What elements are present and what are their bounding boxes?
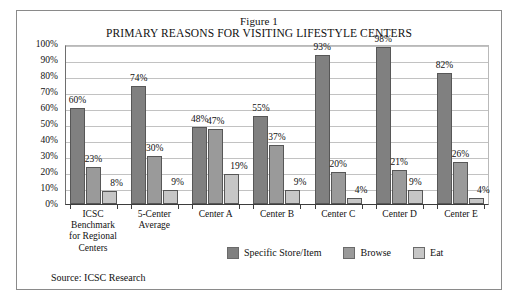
category-label: Center E: [437, 209, 485, 254]
bar-value-label: 98%: [375, 35, 392, 45]
bar[interactable]: 20%: [331, 172, 346, 204]
bar-group: 93%20%4%: [315, 46, 362, 204]
bar-value-label: 4%: [355, 186, 368, 196]
legend-label: Browse: [360, 248, 391, 258]
figure-title-block: Figure 1 PRIMARY REASONS FOR VISITING LI…: [17, 15, 501, 40]
y-tick-label: 20%: [41, 168, 58, 178]
y-tick-label: 10%: [41, 184, 58, 194]
legend-item[interactable]: Eat: [413, 247, 443, 259]
source-note: Source: ICSC Research: [51, 273, 145, 283]
bar-group: 60%23%8%: [70, 46, 117, 204]
y-tick-label: 30%: [41, 152, 58, 162]
bar[interactable]: 30%: [147, 156, 162, 204]
bar-value-label: 9%: [294, 178, 307, 188]
bar[interactable]: 4%: [347, 198, 362, 204]
bar-value-label: 30%: [146, 144, 163, 154]
bar[interactable]: 9%: [408, 190, 423, 204]
category-label-line: Centers: [69, 243, 117, 254]
y-tick-label: 80%: [41, 72, 58, 82]
bar[interactable]: 48%: [192, 127, 207, 204]
legend-swatch-icon: [413, 247, 425, 259]
category-label-line: Center E: [437, 209, 485, 220]
y-tick-label: 50%: [41, 120, 58, 130]
legend-item[interactable]: Specific Store/Item: [227, 247, 321, 259]
bar-value-label: 26%: [452, 150, 469, 160]
y-tick-label: 90%: [41, 56, 58, 66]
bar-group: 48%47%19%: [192, 46, 239, 204]
bar[interactable]: 37%: [269, 145, 284, 204]
bar-value-label: 23%: [85, 155, 102, 165]
category-label-line: Center D: [376, 209, 424, 220]
bar-value-label: 37%: [268, 133, 285, 143]
bar-value-label: 20%: [329, 160, 346, 170]
bar[interactable]: 9%: [285, 190, 300, 204]
category-label-line: ICSC: [69, 209, 117, 220]
legend-label: Eat: [430, 248, 443, 258]
bar-value-label: 82%: [436, 61, 453, 71]
bar-value-label: 47%: [207, 117, 224, 127]
category-label: ICSCBenchmarkfor RegionalCenters: [69, 209, 117, 254]
bar[interactable]: 21%: [392, 170, 407, 204]
bar-value-label: 19%: [230, 162, 247, 172]
figure-title: PRIMARY REASONS FOR VISITING LIFESTYLE C…: [17, 27, 501, 40]
figure-frame: Figure 1 PRIMARY REASONS FOR VISITING LI…: [16, 10, 502, 290]
bar-value-label: 4%: [477, 186, 490, 196]
bar-group: 55%37%9%: [253, 46, 300, 204]
bar-value-label: 55%: [252, 104, 269, 114]
bar-value-label: 9%: [409, 178, 422, 188]
y-tick-label: 100%: [36, 40, 58, 50]
legend-swatch-icon: [227, 247, 239, 259]
plot-area: 60%23%8%74%30%9%48%47%19%55%37%9%93%20%4…: [65, 45, 489, 205]
bar[interactable]: 19%: [224, 174, 239, 204]
bar-value-label: 8%: [110, 179, 123, 189]
category-label-line: Center B: [253, 209, 301, 220]
category-label-line: Average: [130, 220, 178, 231]
legend-item[interactable]: Browse: [343, 247, 391, 259]
figure-number: Figure 1: [17, 15, 501, 27]
bar[interactable]: 98%: [376, 47, 391, 204]
bar[interactable]: 4%: [469, 198, 484, 204]
category-label: 5-CenterAverage: [130, 209, 178, 254]
bar-value-label: 93%: [313, 43, 330, 53]
legend-label: Specific Store/Item: [244, 248, 321, 258]
bar[interactable]: 60%: [70, 108, 85, 204]
bar-value-label: 48%: [191, 115, 208, 125]
bar-value-label: 9%: [171, 178, 184, 188]
y-axis: 100%90%80%70%60%50%40%30%20%10%0%: [17, 45, 61, 217]
bar-value-label: 21%: [391, 158, 408, 168]
bar[interactable]: 23%: [86, 167, 101, 204]
chart-legend: Specific Store/ItemBrowseEat: [227, 247, 443, 259]
bar[interactable]: 82%: [437, 73, 452, 204]
bar[interactable]: 74%: [131, 86, 146, 204]
plot-wrapper: 100%90%80%70%60%50%40%30%20%10%0% 60%23%…: [17, 45, 503, 217]
bar[interactable]: 55%: [253, 116, 268, 204]
bar-group: 98%21%9%: [376, 46, 423, 204]
category-label-line: 5-Center: [130, 209, 178, 220]
bar-group: 82%26%4%: [437, 46, 484, 204]
bar-group: 74%30%9%: [131, 46, 178, 204]
y-tick-label: 0%: [45, 200, 58, 210]
bar[interactable]: 93%: [315, 55, 330, 204]
bar[interactable]: 47%: [208, 129, 223, 204]
legend-swatch-icon: [343, 247, 355, 259]
category-label-line: Center A: [192, 209, 240, 220]
y-tick-label: 60%: [41, 104, 58, 114]
bar[interactable]: 9%: [163, 190, 178, 204]
category-label-line: for Regional: [69, 231, 117, 242]
bar-value-label: 74%: [130, 74, 147, 84]
category-label-line: Benchmark: [69, 220, 117, 231]
bar[interactable]: 26%: [453, 162, 468, 204]
bar-value-label: 60%: [69, 96, 86, 106]
category-label-line: Center C: [314, 209, 362, 220]
y-tick-label: 40%: [41, 136, 58, 146]
bar[interactable]: 8%: [102, 191, 117, 204]
y-tick-label: 70%: [41, 88, 58, 98]
bar-groups: 60%23%8%74%30%9%48%47%19%55%37%9%93%20%4…: [66, 46, 488, 204]
